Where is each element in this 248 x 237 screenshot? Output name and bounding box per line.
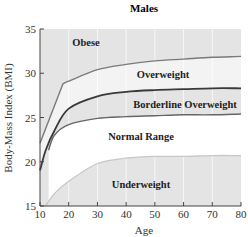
region-label-borderline: Borderline Overweight (133, 99, 237, 110)
x-tick-label: 70 (207, 208, 219, 220)
y-axis-label: Body-Mass Index (BMI) (2, 63, 15, 173)
x-tick-label: 40 (121, 208, 133, 220)
y-tick-label: 30 (25, 67, 37, 79)
y-tick-label: 35 (25, 23, 37, 35)
x-tick-label: 20 (63, 208, 75, 220)
region-label-obese: Obese (72, 37, 100, 48)
x-tick-label: 80 (236, 208, 248, 220)
chart-title: Males (130, 2, 159, 14)
x-tick-label: 30 (92, 208, 104, 220)
region-label-underweight: Underweight (112, 179, 171, 190)
x-tick-label: 60 (178, 208, 190, 220)
region-label-normal: Normal Range (108, 131, 174, 142)
y-tick-label: 25 (25, 112, 37, 124)
x-tick-label: 10 (35, 208, 47, 220)
x-tick-label: 50 (149, 208, 161, 220)
bmi-chart: Males Age Body-Mass Index (BMI) 10203040… (0, 0, 248, 237)
region-label-overweight: Overweight (137, 69, 190, 80)
y-tick-label: 20 (25, 156, 37, 168)
x-axis-label: Age (135, 224, 153, 236)
y-tick-label: 15 (25, 200, 37, 212)
